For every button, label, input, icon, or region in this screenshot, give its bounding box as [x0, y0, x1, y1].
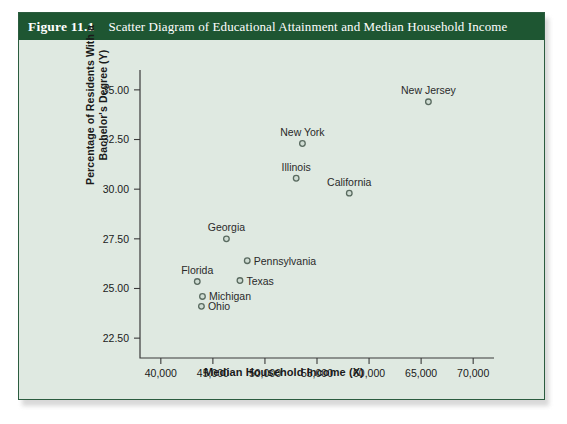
data-point-marker	[300, 141, 306, 147]
data-point-label: Ohio	[208, 300, 230, 312]
x-axis-ticks: 40,00045,00050,00055,00060,00065,00070,0…	[145, 358, 490, 379]
figure-title-label: Scatter Diagram of Educational Attainmen…	[108, 19, 507, 35]
data-point-marker	[346, 190, 352, 196]
data-point-label: Florida	[181, 264, 213, 276]
data-point-marker	[194, 279, 200, 285]
data-point-label: New York	[280, 126, 325, 138]
x-tick-label: 40,000	[145, 367, 177, 379]
data-point-marker	[199, 304, 205, 310]
data-point-label: California	[327, 176, 372, 188]
y-tick-label: 25.00	[103, 282, 129, 294]
figure-container: Figure 11.1 Scatter Diagram of Education…	[18, 12, 545, 400]
y-tick-label: 30.00	[103, 183, 129, 195]
data-point-marker	[200, 294, 206, 300]
data-point-marker	[224, 236, 230, 242]
data-point-label: Texas	[246, 275, 273, 287]
axis-lines	[140, 70, 494, 358]
x-tick-label: 70,000	[457, 367, 489, 379]
data-point-label: Pennsylvania	[254, 255, 317, 267]
data-point-label: Illinois	[282, 161, 311, 173]
data-point-label: New Jersey	[401, 84, 457, 96]
y-axis-ticks: 22.5025.0027.5030.0032.5035.00	[103, 84, 140, 344]
x-tick-label: 60,000	[353, 367, 385, 379]
data-point-marker	[293, 175, 299, 181]
x-tick-label: 55,000	[301, 367, 333, 379]
y-tick-label: 32.50	[103, 133, 129, 145]
data-point-marker	[426, 99, 432, 105]
y-tick-label: 35.00	[103, 84, 129, 96]
data-points: New JerseyNew YorkIllinoisCaliforniaGeor…	[181, 84, 456, 312]
data-point-label: Georgia	[208, 221, 246, 233]
x-tick-label: 50,000	[249, 367, 281, 379]
data-point-marker	[237, 278, 243, 284]
y-tick-label: 27.50	[103, 233, 129, 245]
data-point-marker	[244, 258, 250, 264]
chart-plot-area: Percentage of Residents With a Bachelor'…	[19, 40, 544, 399]
x-tick-label: 65,000	[405, 367, 437, 379]
x-tick-label: 45,000	[197, 367, 229, 379]
scatter-plot-svg: 22.5025.0027.5030.0032.5035.00 40,00045,…	[19, 40, 546, 399]
y-tick-label: 22.50	[103, 332, 129, 344]
